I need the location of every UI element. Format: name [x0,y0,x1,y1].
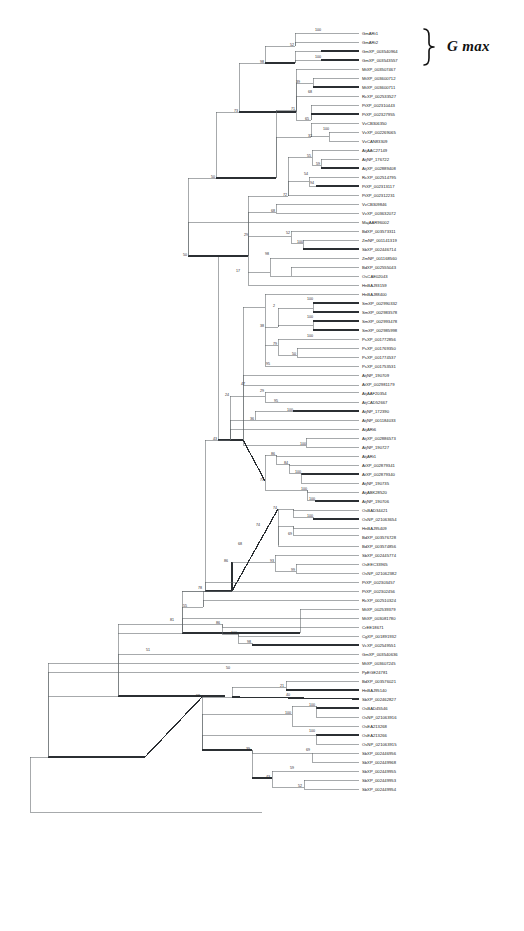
support-value: 98 [196,694,200,698]
tip-label: SmXP_002983578 [362,310,398,315]
support-value: 100 [307,297,313,301]
support-value: 95 [274,399,278,403]
support-value: 52 [298,784,302,788]
support-value: 100 [309,497,315,501]
tip-label: AtjAAF20354 [362,391,387,396]
tip-label: VvCAN83309 [362,139,388,144]
tip-label: SmXP_002990332 [362,301,398,306]
tip-label: PsXP_001769350 [362,346,396,351]
tip-label: OsNP_021063916 [362,715,397,720]
tip-label: GmXP_003543557 [362,58,398,63]
tree-canvas: GmARt1GmARt2GmXP_003540964GmXP_003543557… [0,0,524,931]
support-value: 43 [213,437,217,441]
support-value: 100 [307,514,313,518]
support-value: 100 [307,334,313,338]
tip-label: SbXP_002449968 [362,760,397,765]
tip-label: HnBAJ95409 [362,526,387,531]
support-value: 95 [266,362,270,366]
tip-label: RcXP_002510324 [362,598,397,603]
support-value: 65 [305,117,309,121]
tip-label: MtXP_003600712 [362,76,396,81]
tip-label: GmXP_003540636 [362,652,398,657]
tip-label: PtXP_002302456 [362,589,396,594]
support-value: 100 [231,631,237,635]
tip-label: MajAAR96002 [362,220,390,225]
support-value: 59 [290,766,294,770]
tip-label: AtXP_002981179 [362,382,395,387]
support-value: 99 [291,568,295,572]
tip-label: OsEA213268 [362,724,388,729]
tip-label: SbXP_002449953 [362,778,397,783]
tip-label: RcXP_002514795 [362,175,397,180]
tip-label: SmXP_002985998 [362,328,398,333]
tip-label: OsEA213266 [362,733,388,738]
tip-label: OsNP_021063654 [362,517,397,522]
support-value: 69 [306,748,310,752]
tip-label: BdXP_003573311 [362,229,396,234]
tip-label: BdXP_003576021 [362,679,397,684]
support-value: 100 [315,28,321,32]
tip-label: SbXP_002449955 [362,769,397,774]
support-value: 86 [224,559,228,563]
support-value: 100 [285,711,291,715]
support-value: 50 [226,666,230,670]
support-value: 100 [297,240,303,244]
support-value: 43 [266,775,270,779]
tip-label: VvXP_002269065 [362,130,396,135]
tip-label: HnBAJ88400 [362,292,387,297]
support-value: 84 [284,461,288,465]
tip-label: GmARt2 [362,40,379,45]
support-value: 68 [238,542,242,546]
support-value: 69 [288,532,292,536]
tip-label: PtXP_002303457 [362,580,396,585]
tip-label: SmXP_002993478 [362,319,398,324]
tip-label: AtjAAC27149 [362,148,388,153]
support-value: 24 [225,393,229,397]
tip-label: HnBAJ95140 [362,688,387,693]
support-value: 73 [234,109,238,113]
support-value: 38 [260,324,264,328]
tip-label: HnBAJ93159 [362,283,387,288]
support-value: 55 [307,154,311,158]
support-value: 100 [300,442,306,446]
tip-label: AtjCAD52667 [362,400,388,405]
support-value: 17 [236,269,240,273]
tip-label: MtXP_003607245 [362,661,396,666]
tip-label: SbXP_002446956 [362,751,397,756]
support-value: 50 [183,253,187,257]
support-value: 29 [244,233,248,237]
support-value: 29 [260,389,264,393]
support-value: 2 [273,304,275,308]
tip-label: SbXP_002446714 [362,247,397,252]
support-value: 100 [301,487,307,491]
support-value: 100 [287,408,293,412]
tip-label: PsXP_001772856 [362,337,396,342]
support-value: 50 [211,175,215,179]
tip-label: VvCB309846 [362,202,387,207]
support-value-group: 1005298100733968716532100505559549472685… [146,28,329,788]
tip-label: MtXP_003507467 [362,67,396,72]
support-value: 100 [307,315,313,319]
tip-label: PsXP_001753531 [362,364,396,369]
support-value: 40 [286,693,290,697]
support-value: 81 [170,618,174,622]
tip-label: SbXP_002462827 [362,697,397,702]
tip-label: PsXP_001774537 [362,355,396,360]
tip-label: CgXP_001891932 [362,634,397,639]
support-value: 52 [290,43,294,47]
support-value: 100 [295,470,301,474]
support-value: 50 [292,352,296,356]
support-value: 79 [273,342,277,346]
tip-label: AtjNP_172390 [362,409,390,414]
tip-label: AtjNP_190709 [362,373,390,378]
tip-label: VvXP_003632072 [362,211,396,216]
tip-label: AtjNP_176722 [362,157,390,162]
support-value: 98 [260,60,264,64]
tip-label: OsEEC33965 [362,562,388,567]
tip-label: PtXP_002310443 [362,103,396,108]
tip-label: OsBAD34421 [362,508,388,513]
support-value: 72 [283,193,287,197]
tip-label: BdXP_003574856 [362,544,397,549]
support-value: 78 [198,586,202,590]
tip-label: AtjNP_190706 [362,499,390,504]
